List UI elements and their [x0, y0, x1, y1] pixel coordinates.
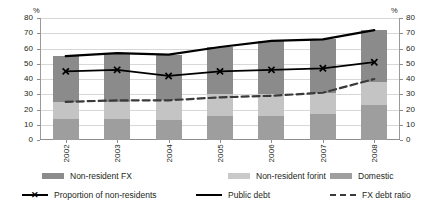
legend-line-icon: [196, 190, 222, 200]
legend-item[interactable]: Non-resident forint: [228, 168, 326, 184]
y-tick-label-left: 80: [11, 14, 33, 22]
legend-label: Proportion of non-residents: [54, 190, 157, 200]
legend-row-lines: ✕Proportion of non-residentsPublic debtF…: [0, 187, 433, 203]
legend-item[interactable]: ✕Proportion of non-residents: [22, 187, 157, 203]
y-tick-mark: [400, 125, 403, 126]
y-tick-label-left: 10: [11, 121, 33, 129]
x-tick-label: 2004: [165, 144, 174, 163]
x-tick-label: 2006: [267, 144, 276, 163]
legend-item[interactable]: Non-resident FX: [42, 168, 132, 184]
y-tick-mark: [400, 79, 403, 80]
y-tick-label-right: 30: [406, 90, 428, 98]
legend-label: Domestic: [358, 171, 393, 181]
y-tick-mark: [400, 64, 403, 65]
legend-item[interactable]: Public debt: [196, 187, 270, 203]
legend-row-bars: Non-resident FXNon-resident forintDomest…: [0, 168, 433, 184]
line-proportion-non-residents: [66, 62, 375, 76]
x-tick-label: 2002: [62, 144, 71, 163]
y-tick-label-left: 20: [11, 106, 33, 114]
x-tick-mark: [374, 140, 375, 143]
y-tick-label-left: 60: [11, 45, 33, 53]
y-tick-mark: [400, 110, 403, 111]
legend-item[interactable]: Domestic: [330, 168, 393, 184]
y-axis-unit-left: %: [33, 6, 40, 15]
y-tick-label-right: 0: [406, 136, 428, 144]
legend-label: FX debt ratio: [362, 190, 411, 200]
y-tick-label-left: 70: [11, 29, 33, 37]
y-tick-mark: [400, 33, 403, 34]
plot-area: [40, 18, 400, 140]
y-tick-label-left: 40: [11, 75, 33, 83]
y-tick-label-left: 0: [11, 136, 33, 144]
legend-swatch-icon: [228, 173, 250, 179]
x-tick-mark: [323, 140, 324, 143]
y-tick-label-right: 40: [406, 75, 428, 83]
line-series-group: [40, 18, 400, 140]
x-tick-mark: [169, 140, 170, 143]
legend-label: Public debt: [228, 190, 270, 200]
x-tick-mark: [117, 140, 118, 143]
legend-swatch-icon: [42, 173, 64, 179]
x-tick-label: 2003: [113, 144, 122, 163]
y-tick-label-left: 50: [11, 60, 33, 68]
legend-line-icon: ✕: [22, 190, 48, 200]
x-tick-label: 2008: [370, 144, 379, 163]
y-tick-label-right: 60: [406, 45, 428, 53]
y-tick-mark: [400, 49, 403, 50]
y-tick-label-right: 70: [406, 29, 428, 37]
y-tick-label-right: 50: [406, 60, 428, 68]
x-tick-label: 2005: [216, 144, 225, 163]
y-tick-label-right: 10: [406, 121, 428, 129]
x-tick-mark: [271, 140, 272, 143]
y-tick-mark: [37, 140, 40, 141]
legend-item[interactable]: FX debt ratio: [330, 187, 411, 203]
legend-swatch-icon: [330, 173, 352, 179]
y-tick-label-right: 20: [406, 106, 428, 114]
y-tick-mark: [400, 18, 403, 19]
y-tick-mark: [400, 140, 403, 141]
legend-label: Non-resident forint: [256, 171, 326, 181]
line-fx-debt-ratio: [66, 79, 375, 102]
line-public-debt: [66, 30, 375, 56]
x-tick-mark: [220, 140, 221, 143]
chart-legend: Non-resident FXNon-resident forintDomest…: [0, 168, 433, 213]
chart-container: % % 01020304050607080 01020304050607080 …: [0, 0, 433, 213]
y-tick-label-right: 80: [406, 14, 428, 22]
x-tick-label: 2007: [319, 144, 328, 163]
legend-line-icon: [330, 190, 356, 200]
y-axis-unit-right: %: [391, 6, 398, 15]
marker-x-icon: ✕: [31, 191, 39, 200]
y-tick-label-left: 30: [11, 90, 33, 98]
x-tick-mark: [66, 140, 67, 143]
y-tick-mark: [400, 94, 403, 95]
legend-label: Non-resident FX: [70, 171, 132, 181]
